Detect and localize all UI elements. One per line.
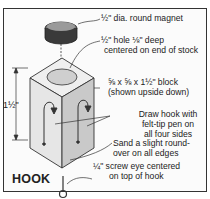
sand-label-line1: Sand a slight round- — [113, 139, 190, 148]
screw-eye-icon — [60, 176, 67, 198]
height-dimension: 1½" — [3, 100, 19, 110]
hole-label-line1: ½" hole ⅛" deep — [101, 36, 164, 45]
block-label-line2: (shown upside down) — [108, 88, 189, 97]
block-icon — [30, 58, 94, 168]
draw-label-line1: Draw hook with — [132, 110, 204, 119]
magnet-label: ½" dia. round magnet — [101, 14, 183, 23]
hole-label-line2: centered on end of stock — [104, 46, 198, 55]
block-label-line1: ⅝ x ⅝ x 1½" block — [108, 78, 178, 87]
diagram-title: HOOK — [12, 172, 50, 186]
screw-label-line1: ¼" screw eye centered — [93, 162, 180, 171]
screw-label-line2: on top of hook — [109, 172, 163, 181]
sand-label-line2: over on all edges — [113, 149, 178, 158]
draw-label-line2: felt-tip pen on — [132, 120, 204, 129]
magnet-icon — [45, 22, 77, 44]
